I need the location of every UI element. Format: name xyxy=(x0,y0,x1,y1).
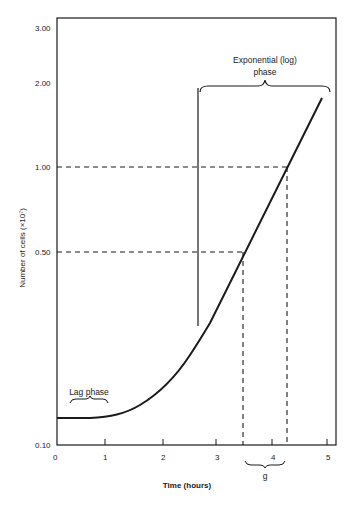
x-tick-2: 2 xyxy=(161,453,166,462)
lag-phase-label: Lag phase xyxy=(69,387,109,397)
x-tick-4: 4 xyxy=(271,453,276,462)
lag-phase-brace xyxy=(70,396,108,403)
x-tick-3: 3 xyxy=(215,453,220,462)
dashed-guides xyxy=(57,167,287,445)
x-tick-5: 5 xyxy=(326,453,331,462)
y-axis-title: Number of cells (×10⁷) xyxy=(18,208,27,288)
log-phase-label-line2: phase xyxy=(253,67,276,77)
x-axis-title: Time (hours) xyxy=(163,481,212,490)
y-tick-0.50: 0.50 xyxy=(35,248,51,257)
y-tick-2.00: 2.00 xyxy=(35,79,51,88)
y-tick-3.00: 3.00 xyxy=(35,24,51,33)
x-tick-1: 1 xyxy=(103,453,108,462)
generation-time-brace xyxy=(245,461,285,468)
x-ticks xyxy=(105,439,327,445)
y-tick-0.10: 0.10 xyxy=(35,441,51,450)
growth-curve-chart: 0 1 2 3 4 5 0.10 0.50 1.00 2.00 3.00 Num… xyxy=(0,0,353,512)
log-phase-brace xyxy=(200,80,330,92)
plot-frame xyxy=(57,18,336,445)
x-tick-0: 0 xyxy=(53,453,58,462)
y-tick-1.00: 1.00 xyxy=(35,163,51,172)
growth-curve-line xyxy=(57,98,322,418)
log-phase-label-line1: Exponential (log) xyxy=(233,55,297,65)
generation-time-label: g xyxy=(263,471,268,481)
